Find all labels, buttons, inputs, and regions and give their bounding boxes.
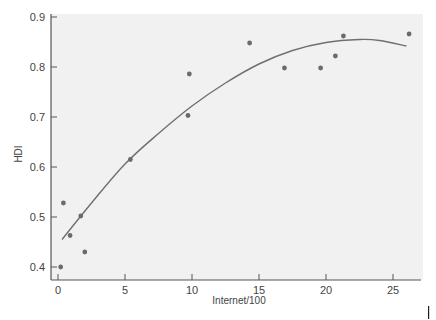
x-tick-label: 5	[122, 284, 128, 296]
plot-background	[51, 14, 423, 280]
data-point	[333, 54, 338, 59]
data-point	[82, 250, 87, 255]
data-point	[247, 41, 252, 46]
data-point	[282, 66, 287, 71]
y-tick-label: 0.8	[30, 61, 45, 73]
x-axis-label: Internet/100	[212, 295, 266, 306]
data-point	[187, 72, 192, 77]
text-cursor	[428, 306, 429, 319]
y-tick-label: 0.4	[30, 261, 45, 273]
data-point	[341, 34, 346, 39]
data-point	[61, 201, 66, 206]
data-point	[128, 157, 133, 162]
x-tick-label: 25	[387, 284, 399, 296]
data-point	[58, 265, 63, 270]
data-point	[78, 214, 83, 219]
x-tick-label: 10	[186, 284, 198, 296]
data-point	[186, 113, 191, 118]
data-point	[68, 233, 73, 238]
x-tick-label: 20	[320, 284, 332, 296]
scatter-chart: 0.40.50.60.70.80.9 0510152025 Internet/1…	[0, 0, 436, 320]
data-point	[318, 66, 323, 71]
y-tick-label: 0.6	[30, 161, 45, 173]
y-tick-label: 0.7	[30, 111, 45, 123]
y-axis-label: HDI	[13, 145, 24, 162]
data-point	[407, 32, 412, 37]
y-tick-label: 0.9	[30, 11, 45, 23]
x-tick-label: 0	[55, 284, 61, 296]
y-tick-label: 0.5	[30, 211, 45, 223]
